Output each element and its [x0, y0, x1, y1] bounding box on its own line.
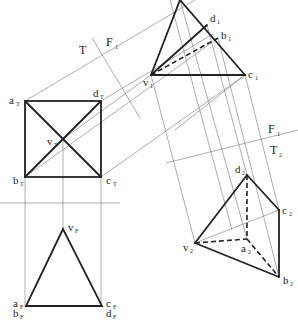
projector-v1-2	[151, 75, 195, 243]
label-a2: a2	[241, 242, 251, 255]
label-aT: aT	[9, 94, 20, 107]
svg-text:v: v	[183, 241, 189, 253]
svg-text:1: 1	[228, 36, 231, 42]
fold-label-T2-sub: 2	[279, 152, 282, 158]
label-b2: b2	[283, 274, 293, 287]
svg-text:1: 1	[150, 83, 153, 89]
fold-label-F1: F	[106, 35, 113, 49]
svg-text:b: b	[221, 29, 227, 41]
label-b1: b1	[221, 29, 231, 42]
svg-text:T: T	[20, 181, 24, 187]
svg-text:F: F	[75, 228, 79, 234]
svg-text:b: b	[13, 174, 19, 186]
svg-text:F: F	[113, 314, 117, 320]
svg-text:d: d	[106, 307, 112, 319]
projector-cT-1	[101, 75, 245, 177]
fold-label-F1-b-sub: 1	[277, 131, 280, 137]
label-c2: c2	[282, 204, 292, 217]
label-c1: c1	[248, 68, 258, 81]
svg-text:a: a	[241, 242, 246, 254]
svg-text:b: b	[283, 274, 289, 286]
svg-text:2: 2	[242, 170, 245, 176]
aux1-hidden-edge-v-b	[151, 38, 218, 75]
svg-text:2: 2	[248, 249, 251, 255]
label-v2: v2	[183, 241, 193, 254]
svg-text:v: v	[47, 135, 53, 147]
svg-text:T: T	[16, 101, 20, 107]
label-d1: d1	[210, 12, 220, 25]
aux2-edge-d-c	[247, 175, 279, 210]
svg-text:a: a	[9, 94, 14, 106]
aux2-edge-v-b	[195, 243, 279, 277]
fold-line-top-aux1	[92, 38, 140, 118]
svg-text:v: v	[68, 221, 74, 233]
label-d2: d2	[235, 163, 245, 176]
fold-label-F1-sub: 1	[115, 44, 118, 50]
fold-label-T: T	[79, 43, 87, 57]
pyramid-projection-drawing: T F 1 F 1 T 2 aT dT vT bT cT vF aF bF cF…	[0, 0, 298, 322]
svg-text:2: 2	[289, 211, 292, 217]
svg-text:F: F	[20, 314, 24, 320]
svg-text:b: b	[13, 307, 19, 319]
label-vT: vT	[47, 135, 58, 148]
svg-text:c: c	[106, 174, 111, 186]
svg-text:c: c	[282, 204, 287, 216]
projector-apex-2	[180, 0, 247, 239]
fold-label-F1-b: F	[268, 122, 275, 136]
svg-text:F: F	[20, 304, 24, 310]
svg-text:1: 1	[255, 75, 258, 81]
label-vF: vF	[68, 221, 79, 234]
svg-text:T: T	[113, 181, 117, 187]
svg-text:c: c	[248, 68, 253, 80]
svg-text:1: 1	[217, 19, 220, 25]
svg-text:d: d	[210, 12, 216, 24]
label-dT: dT	[93, 87, 104, 100]
front-view-triangle	[26, 229, 102, 306]
svg-text:T: T	[54, 142, 58, 148]
fold-label-T2: T	[270, 143, 278, 157]
projector-vT-1	[63, 75, 151, 139]
svg-text:d: d	[93, 87, 99, 99]
svg-text:2: 2	[290, 281, 293, 287]
svg-text:v: v	[143, 76, 149, 88]
svg-text:2: 2	[190, 248, 193, 254]
label-cT: cT	[106, 174, 117, 187]
projector-bT-1	[25, 38, 218, 177]
projector-aT-1	[25, 0, 195, 101]
aux1-edge-v-apex	[151, 0, 180, 75]
svg-text:d: d	[235, 163, 241, 175]
svg-text:T: T	[100, 94, 104, 100]
svg-text:F: F	[113, 304, 117, 310]
label-bT: bT	[13, 174, 24, 187]
